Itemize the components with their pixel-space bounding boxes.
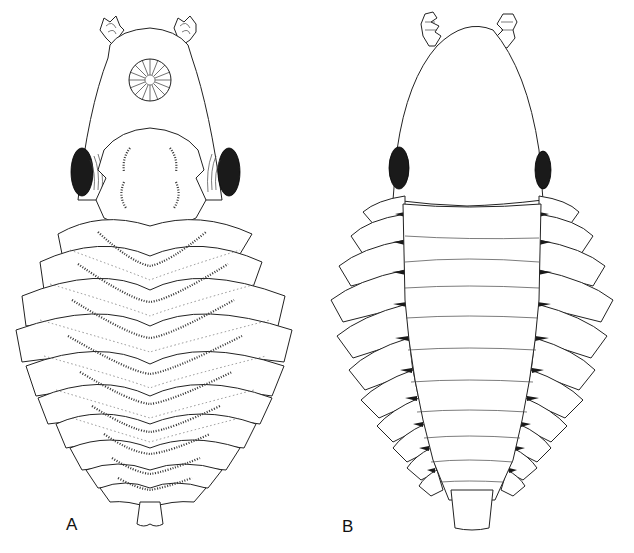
- panel-label-a: A: [66, 515, 77, 535]
- eye-left: [389, 147, 409, 189]
- ventral-cephalic-plate: [96, 128, 206, 232]
- body-lobes: [16, 220, 292, 508]
- eye-left: [71, 148, 93, 196]
- figure-panel-a: A: [0, 0, 317, 553]
- dorsal-view-illustration: [317, 0, 634, 553]
- tail-piece: [451, 490, 493, 530]
- panel-label-b: B: [342, 517, 353, 537]
- ventral-view-illustration: [0, 0, 317, 553]
- eye-right: [535, 151, 551, 189]
- figure-panel-b: B: [317, 0, 634, 553]
- head-shield: [393, 26, 543, 206]
- mouth-disc: [129, 59, 171, 101]
- tail-piece: [137, 502, 163, 526]
- eye-right: [218, 148, 240, 196]
- frontal-appendage-left: [421, 12, 441, 46]
